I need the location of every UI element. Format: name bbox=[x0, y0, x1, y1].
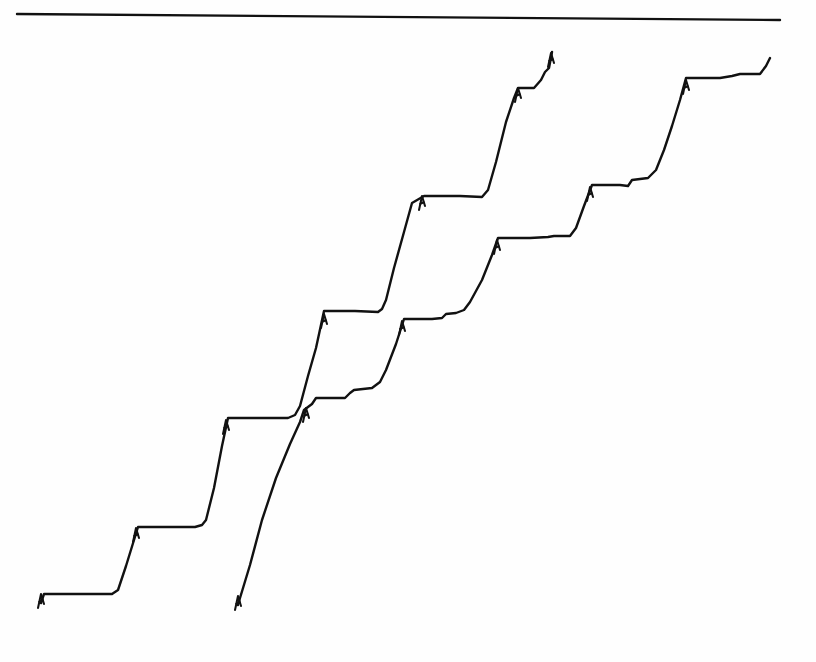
step-arrow-icon bbox=[399, 321, 405, 335]
step-arrow-icon bbox=[587, 187, 593, 201]
step-marker-layer bbox=[38, 53, 689, 610]
top-baseline-line bbox=[17, 14, 780, 20]
chart-figure bbox=[0, 0, 816, 662]
step-arrow-icon bbox=[548, 53, 554, 67]
series-layer bbox=[41, 52, 770, 605]
staircase-trace-2-line bbox=[238, 58, 770, 605]
step-arrow-icon bbox=[494, 240, 500, 254]
reference-lines bbox=[17, 14, 780, 20]
staircase-trace-1-line bbox=[41, 52, 552, 603]
plot-area bbox=[0, 0, 816, 662]
